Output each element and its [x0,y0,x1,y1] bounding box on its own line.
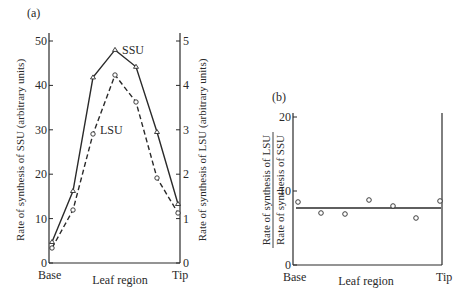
b-x-label-tip: Tip [436,270,452,284]
lsu-markers [50,73,180,250]
x-label-tip: Tip [172,268,188,282]
b-axis-title-denominator: Rate of synthesis of SSU [274,135,286,245]
panel-b-label: (b) [272,90,286,104]
b-axis-title: Rate of synthesis of LSU Rate of synthes… [260,132,286,248]
b-tick-label: 20 [279,110,291,124]
panel-a: (a) 0 10 20 30 40 50 [14,6,209,287]
lsu-annotation: LSU [100,123,123,137]
right-tick-label: 1 [183,212,189,226]
x-label-base: Base [38,268,61,282]
ssu-series-line [52,50,178,242]
b-x-label-base: Base [283,270,306,284]
left-tick-label: 50 [35,34,47,48]
panel-b: (b) 20 10 0 Rate of synthesis of LSU Rat… [260,90,452,288]
left-tick-label: 20 [35,167,47,181]
figure: (a) 0 10 20 30 40 50 [0,0,459,298]
right-tick-label: 5 [183,34,189,48]
right-axis-title: Rate of synthesis of LSU (arbitrary unit… [196,58,209,241]
x-axis-title: Leaf region [92,273,148,287]
left-axis-title: Rate of synthesis of SSU (arbitrary unit… [14,59,27,241]
right-tick-label: 3 [183,123,189,137]
left-tick-label: 30 [35,123,47,137]
b-x-axis-title: Leaf region [338,274,394,288]
left-tick-label: 10 [35,212,47,226]
right-tick-label: 4 [183,78,189,92]
lsu-series-line [52,75,178,248]
ssu-annotation: SSU [122,43,144,57]
panel-a-label: (a) [27,6,40,20]
left-tick-label: 40 [35,78,47,92]
b-axis-title-numerator: Rate of synthesis of LSU [260,135,272,246]
ratio-markers [296,198,443,221]
right-tick-label: 2 [183,167,189,181]
